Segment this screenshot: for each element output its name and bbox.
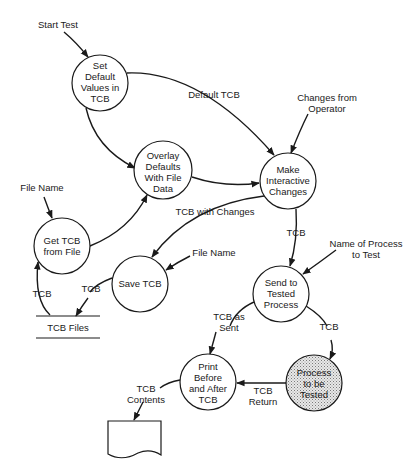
process-send-to-tested: Send to Tested Process (253, 266, 309, 322)
flow-start-test (64, 32, 88, 57)
svg-text:Defaults: Defaults (146, 161, 181, 172)
flow-get-to-overlay (90, 195, 147, 246)
svg-text:Tested: Tested (300, 389, 328, 400)
label-tcb-files: TCB Files (47, 322, 89, 333)
svg-text:Before: Before (194, 372, 222, 383)
flow-send-to-print-b (210, 332, 216, 354)
flow-file-name-get (44, 197, 52, 218)
process-make-interactive-changes: Make Interactive Changes (260, 153, 316, 209)
flow-changes-from-operator (291, 114, 308, 153)
svg-text:With File: With File (145, 172, 182, 183)
svg-text:Process: Process (264, 299, 299, 310)
process-set-default-values: Set Default Values in TCB (72, 55, 128, 111)
label-start-test: Start Test (38, 19, 78, 30)
label-default-tcb: Default TCB (188, 89, 240, 100)
label-tcb-make-to-send: TCB (287, 227, 306, 238)
label-name-of-process-1: Name of Process (330, 238, 403, 249)
label-tcb-with-changes: TCB with Changes (175, 206, 254, 217)
svg-text:Get TCB: Get TCB (44, 235, 81, 246)
svg-text:from File: from File (44, 246, 81, 257)
flow-file-name-save (166, 256, 190, 270)
svg-text:Save TCB: Save TCB (118, 278, 161, 289)
svg-text:Overlay: Overlay (147, 150, 180, 161)
flow-name-of-process (303, 250, 336, 274)
label-tcb-store-up: TCB (33, 288, 52, 299)
svg-text:Data: Data (153, 183, 174, 194)
svg-text:Set: Set (93, 60, 108, 71)
process-overlay-defaults: Overlay Defaults With File Data (134, 141, 192, 199)
svg-text:and After: and After (189, 383, 227, 394)
flow-set-to-overlay (86, 108, 135, 168)
svg-text:TCB: TCB (91, 93, 110, 104)
label-file-name-save: File Name (192, 247, 235, 258)
process-to-be-tested: Process to be Tested (286, 355, 342, 411)
label-tcb-to-process: TCB (320, 321, 339, 332)
flow-send-to-process-b (330, 340, 332, 359)
svg-text:Send to: Send to (265, 277, 298, 288)
label-tcb-contents-2: Contents (127, 394, 165, 405)
process-get-tcb-from-file: Get TCB from File (34, 218, 90, 274)
svg-text:Values in: Values in (81, 82, 119, 93)
svg-text:Process: Process (297, 367, 332, 378)
label-name-of-process-2: to Test (352, 249, 380, 260)
svg-text:Interactive: Interactive (266, 175, 310, 186)
label-tcb-as-sent-2: Sent (219, 322, 239, 333)
label-changes-from-operator-2: Operator (308, 103, 346, 114)
data-flow-diagram: TCB Files Set Default Values in TCB Over… (0, 0, 418, 474)
process-print-before-after: Print Before and After TCB (180, 354, 236, 410)
label-tcb-return-1: TCB (254, 385, 273, 396)
svg-text:Default: Default (85, 71, 115, 82)
svg-text:Tested: Tested (267, 288, 295, 299)
label-tcb-as-sent-1: TCB as (213, 311, 245, 322)
label-changes-from-operator-1: Changes from (297, 92, 357, 103)
label-tcb-return-2: Return (249, 396, 278, 407)
label-tcb-contents-1: TCB (137, 383, 156, 394)
svg-text:Print: Print (198, 361, 218, 372)
flow-default-tcb (127, 73, 274, 155)
svg-text:Changes: Changes (269, 186, 307, 197)
data-store-tcb-files: TCB Files (36, 316, 100, 338)
svg-text:TCB: TCB (199, 394, 218, 405)
output-document-icon (108, 421, 161, 458)
label-file-name-get: File Name (20, 182, 63, 193)
process-save-tcb: Save TCB (112, 256, 168, 312)
label-tcb-store-down: TCB (82, 283, 101, 294)
flow-overlay-to-make (192, 177, 259, 185)
flow-print-to-doc-a (160, 380, 180, 388)
svg-text:to be: to be (303, 378, 324, 389)
svg-text:Make: Make (276, 164, 299, 175)
